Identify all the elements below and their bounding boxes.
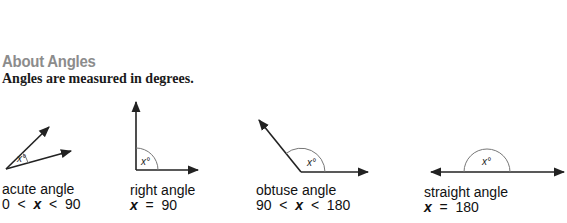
obtuse-angle-marker: x° — [306, 157, 316, 168]
acute-angle-figure: x° — [6, 127, 71, 169]
cond-right: = 180 — [432, 199, 479, 215]
straight-angle-figure: x° — [431, 149, 564, 172]
cond-left: 0 < — [2, 196, 34, 212]
angle-condition: 90 < x < 180 — [256, 198, 350, 213]
cond-right: < 180 — [303, 197, 350, 213]
angle-condition: x = 180 — [424, 200, 508, 215]
angle-name: right angle — [130, 183, 195, 198]
angle-condition: 0 < x < 90 — [2, 197, 81, 212]
cond-right: < 90 — [41, 196, 80, 212]
cond-var: x — [130, 197, 138, 213]
cond-var: x — [295, 197, 303, 213]
angle-name: straight angle — [424, 185, 508, 200]
cond-left: 90 < — [256, 197, 295, 213]
obtuse-angle-figure: x° — [259, 120, 368, 172]
right-angle-figure: x° — [136, 102, 198, 170]
straight-angle-label: straight angle x = 180 — [424, 185, 508, 215]
acute-angle-marker: x° — [16, 153, 26, 164]
cond-right: = 90 — [138, 197, 177, 213]
angle-name: obtuse angle — [256, 183, 350, 198]
cond-var: x — [424, 199, 432, 215]
straight-angle-marker: x° — [481, 156, 491, 167]
right-angle-label: right angle x = 90 — [130, 183, 195, 213]
right-angle-marker: x° — [140, 156, 150, 167]
angle-name: acute angle — [2, 182, 81, 197]
angle-condition: x = 90 — [130, 198, 195, 213]
acute-angle-label: acute angle 0 < x < 90 — [2, 182, 81, 212]
obtuse-angle-label: obtuse angle 90 < x < 180 — [256, 183, 350, 213]
